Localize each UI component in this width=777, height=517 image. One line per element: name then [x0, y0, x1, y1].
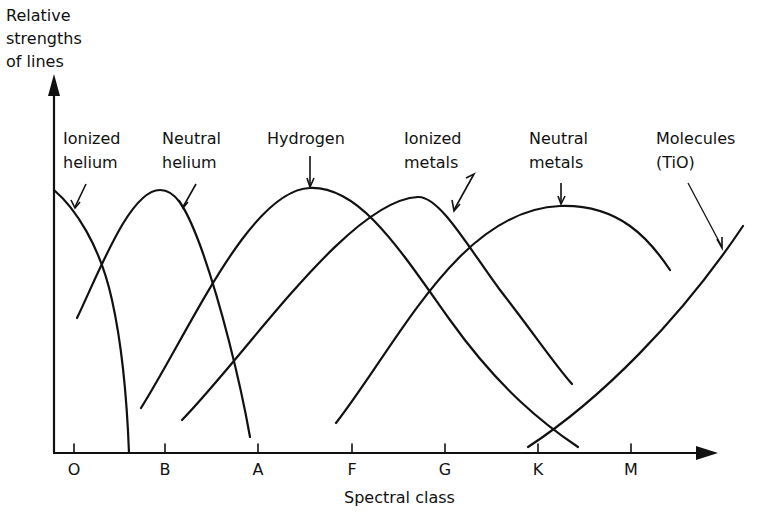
x-tick-label-k: K — [533, 460, 544, 479]
curve-molecules-tio — [528, 226, 743, 447]
x-tick-label-b: B — [160, 460, 171, 479]
label-line: metals — [404, 151, 462, 175]
x-axis-title: Spectral class — [344, 488, 455, 507]
label-hydrogen: Hydrogen — [267, 127, 345, 151]
x-tick-label-o: O — [68, 460, 81, 479]
pointer-ionized-metals — [454, 174, 474, 210]
pointer-ionized-helium — [75, 184, 86, 207]
curve-neutral-helium — [77, 190, 250, 437]
label-ionized-metals: Ionized metals — [404, 127, 462, 175]
x-tick-label-f: F — [347, 460, 356, 479]
chart-canvas — [0, 0, 777, 517]
label-molecules-tio: Molecules (TiO) — [656, 127, 735, 175]
label-line: Molecules — [656, 127, 735, 151]
label-line: metals — [529, 151, 588, 175]
x-tick-label-m: M — [624, 460, 638, 479]
label-line: Ionized — [404, 127, 462, 151]
label-ionized-helium: Ionized helium — [63, 127, 121, 175]
x-tick-label-a: A — [253, 460, 264, 479]
label-line: (TiO) — [656, 151, 735, 175]
label-line: helium — [63, 151, 121, 175]
pointer-neutral-helium — [183, 184, 196, 207]
x-axis-arrowhead — [696, 446, 718, 460]
curve-ionized-helium — [54, 190, 129, 453]
pointer-molecules — [688, 183, 722, 247]
label-line: Hydrogen — [267, 127, 345, 151]
label-line: Neutral — [529, 127, 588, 151]
curve-neutral-metals — [336, 206, 670, 423]
x-axis-ticks — [74, 444, 631, 453]
label-neutral-metals: Neutral metals — [529, 127, 588, 175]
label-line: helium — [162, 151, 221, 175]
label-line: Ionized — [63, 127, 121, 151]
label-neutral-helium: Neutral helium — [162, 127, 221, 175]
curve-hydrogen — [141, 188, 578, 447]
x-tick-label-g: G — [439, 460, 451, 479]
y-axis-arrowhead — [48, 74, 60, 96]
label-line: Neutral — [162, 127, 221, 151]
